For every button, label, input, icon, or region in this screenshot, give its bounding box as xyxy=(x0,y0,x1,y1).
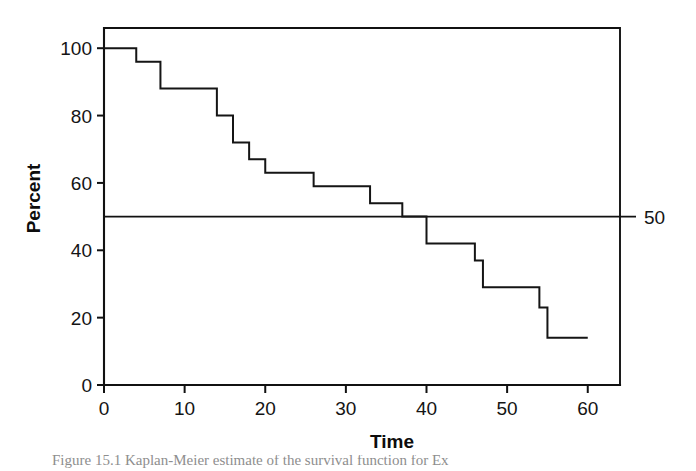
figure-caption: Figure 15.1 Kaplan-Meier estimate of the… xyxy=(52,455,652,469)
y-tick-label: 80 xyxy=(71,106,92,127)
x-tick-label: 60 xyxy=(577,398,598,419)
plot-frame xyxy=(104,28,620,385)
reference-line-label: 50 xyxy=(644,207,665,228)
y-tick-label: 20 xyxy=(71,308,92,329)
x-tick-label: 20 xyxy=(255,398,276,419)
survival-chart: 020406080100010203040506050TimePercent xyxy=(0,0,696,471)
survival-step-curve-0 xyxy=(104,48,588,338)
y-tick-label: 100 xyxy=(60,38,92,59)
x-tick-label: 0 xyxy=(99,398,110,419)
figure-container: 020406080100010203040506050TimePercent F… xyxy=(0,0,696,471)
x-tick-label: 40 xyxy=(416,398,437,419)
x-axis-title: Time xyxy=(370,431,414,452)
y-axis-title: Percent xyxy=(23,163,44,233)
x-tick-label: 50 xyxy=(497,398,518,419)
x-tick-label: 10 xyxy=(174,398,195,419)
figure-caption-strip: Figure 15.1 Kaplan-Meier estimate of the… xyxy=(0,455,696,471)
x-tick-label: 30 xyxy=(335,398,356,419)
y-tick-label: 0 xyxy=(81,375,92,396)
y-tick-label: 40 xyxy=(71,240,92,261)
y-tick-label: 60 xyxy=(71,173,92,194)
